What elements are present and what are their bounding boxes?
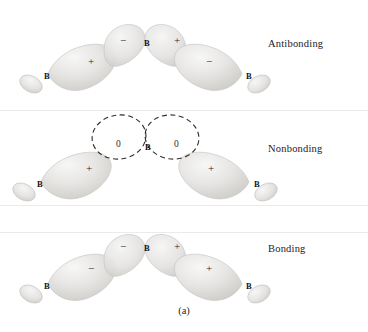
orbital-sign: + xyxy=(86,162,92,174)
atom-label-b: B xyxy=(246,71,252,81)
row-label-antibonding: Antibonding xyxy=(268,38,323,49)
separator-line xyxy=(0,110,368,111)
molecular-orbital-figure xyxy=(0,0,368,332)
orbital-node-zero: 0 xyxy=(116,139,121,149)
figure-caption: (a) xyxy=(0,305,368,316)
orbital-node-zero: 0 xyxy=(174,139,179,149)
atom-label-b: B xyxy=(144,243,150,253)
orbital-sign: + xyxy=(174,240,180,252)
atom-label-b: B xyxy=(254,179,260,189)
orbital-sign: − xyxy=(88,262,94,274)
row-label-nonbonding: Nonbonding xyxy=(268,143,323,154)
row-label-bonding: Bonding xyxy=(268,243,306,254)
orbital-sign: + xyxy=(88,55,94,67)
back-lobe-left xyxy=(10,179,39,204)
atom-label-b: B xyxy=(44,71,50,81)
atom-label-b: B xyxy=(246,281,252,291)
orbital-sign: + xyxy=(208,162,214,174)
orbital-sign: − xyxy=(120,240,126,252)
orbital-sign: + xyxy=(174,34,180,46)
orbital-sign: − xyxy=(206,55,212,67)
orbital-sign: + xyxy=(206,262,212,274)
atom-label-b: B xyxy=(144,38,150,48)
lobe-right-plus xyxy=(179,152,249,199)
separator-line xyxy=(0,205,368,206)
separator-line xyxy=(0,232,368,233)
orbital-row-nonbonding xyxy=(10,111,281,204)
atom-label-b: B xyxy=(145,142,151,152)
orbital-sign: − xyxy=(120,34,126,46)
orbital-row-antibonding xyxy=(17,24,274,96)
atom-label-b: B xyxy=(37,179,43,189)
back-lobe-left xyxy=(17,71,46,96)
lobe-right-outer xyxy=(174,44,242,90)
lobe-left-plus xyxy=(41,152,111,199)
atom-label-b: B xyxy=(44,281,50,291)
back-lobe-left xyxy=(17,281,46,306)
